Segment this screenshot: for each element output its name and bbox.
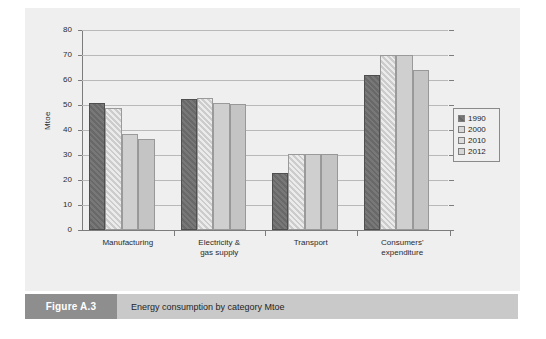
y-axis-tick-label: 40	[25, 126, 72, 134]
bar	[396, 55, 412, 230]
bar	[272, 173, 288, 231]
y-axis-tick-label: 50	[25, 101, 72, 109]
figure-caption-text: Energy consumption by category Mtoe	[117, 294, 285, 319]
y-axis-tick-label: 60	[25, 76, 72, 84]
y-axis-tick-label: 80	[25, 26, 72, 34]
legend-item-1990: 1990	[458, 113, 495, 124]
y-axis-tick-label: 0	[25, 226, 72, 234]
y-axis-tick-mark-right	[449, 105, 454, 106]
bar	[288, 154, 304, 230]
bar	[213, 103, 229, 231]
figure-panel: Mtoe 01020304050607080 ManufacturingElec…	[25, 8, 520, 291]
bar	[321, 154, 337, 230]
legend-label: 2000	[468, 126, 486, 134]
category-label: Transport	[266, 238, 356, 248]
y-axis-tick-mark-right	[449, 205, 454, 206]
legend-label: 2010	[468, 137, 486, 145]
legend-label: 1990	[468, 115, 486, 123]
plot-area	[82, 30, 448, 230]
figure-number-label: Figure A.3	[46, 301, 97, 312]
category-label: Electricity & gas supply	[174, 238, 264, 258]
bar	[122, 134, 138, 230]
bar	[197, 98, 213, 231]
bar	[230, 104, 246, 230]
legend-swatch-icon	[458, 126, 465, 133]
y-axis-tick-mark-right	[449, 80, 454, 81]
bar	[181, 99, 197, 230]
bar	[105, 108, 121, 231]
y-axis-tick-label: 10	[25, 201, 72, 209]
figure-number-block: Figure A.3	[25, 294, 117, 319]
bar	[380, 55, 396, 230]
bar	[138, 139, 154, 230]
category-separator-tick	[357, 231, 358, 236]
y-axis-tick-label: 70	[25, 51, 72, 59]
category-separator-tick	[450, 231, 451, 236]
figure-caption-bar: Figure A.3 Energy consumption by categor…	[25, 294, 518, 319]
y-axis-tick-mark-right	[449, 30, 454, 31]
category-separator-tick	[265, 231, 266, 236]
y-axis-tick-mark-right	[449, 180, 454, 181]
y-axis-tick-label: 20	[25, 176, 72, 184]
y-axis-tick-mark-right	[449, 55, 454, 56]
legend-swatch-icon	[458, 137, 465, 144]
legend-item-2000: 2000	[458, 124, 495, 135]
legend-swatch-icon	[458, 115, 465, 122]
legend-label: 2012	[468, 148, 486, 156]
bar	[305, 154, 321, 230]
gridline	[82, 30, 448, 31]
legend-item-2012: 2012	[458, 146, 495, 157]
category-label: Consumers' expenditure	[357, 238, 447, 258]
category-separator-tick	[174, 231, 175, 236]
bar	[89, 103, 105, 231]
bar	[413, 70, 429, 230]
legend-item-2010: 2010	[458, 135, 495, 146]
bar	[364, 75, 380, 230]
category-label: Manufacturing	[83, 238, 173, 248]
legend-swatch-icon	[458, 148, 465, 155]
y-axis-tick-label: 30	[25, 151, 72, 159]
chart-legend: 1990200020102012	[453, 108, 500, 162]
